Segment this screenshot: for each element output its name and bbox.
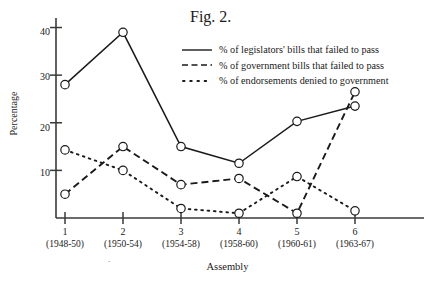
data-point-marker	[293, 209, 301, 217]
data-series-layer	[61, 28, 359, 217]
data-point-marker	[235, 174, 243, 182]
series-dotted	[61, 146, 359, 218]
data-point-marker	[351, 88, 359, 96]
series-line-solid	[65, 32, 355, 163]
data-point-marker	[119, 166, 127, 174]
plot-area	[0, 0, 439, 283]
data-point-marker	[119, 142, 127, 150]
data-point-marker	[119, 28, 127, 36]
data-point-marker	[293, 117, 301, 125]
data-point-marker	[235, 209, 243, 217]
data-point-marker	[351, 102, 359, 110]
data-point-marker	[177, 204, 185, 212]
axes	[50, 18, 424, 224]
data-point-marker	[235, 159, 243, 167]
data-point-marker	[177, 180, 185, 188]
data-point-marker	[61, 190, 69, 198]
data-point-marker	[293, 172, 301, 180]
series-solid	[61, 28, 359, 167]
data-point-marker	[61, 80, 69, 88]
data-point-marker	[351, 207, 359, 215]
data-point-marker	[61, 146, 69, 154]
series-dashed	[61, 88, 359, 218]
series-line-dashed	[65, 92, 355, 213]
figure-2-chart: Fig. 2. Percentage Assembly . 40 30 20 1…	[0, 0, 439, 283]
data-point-marker	[177, 142, 185, 150]
